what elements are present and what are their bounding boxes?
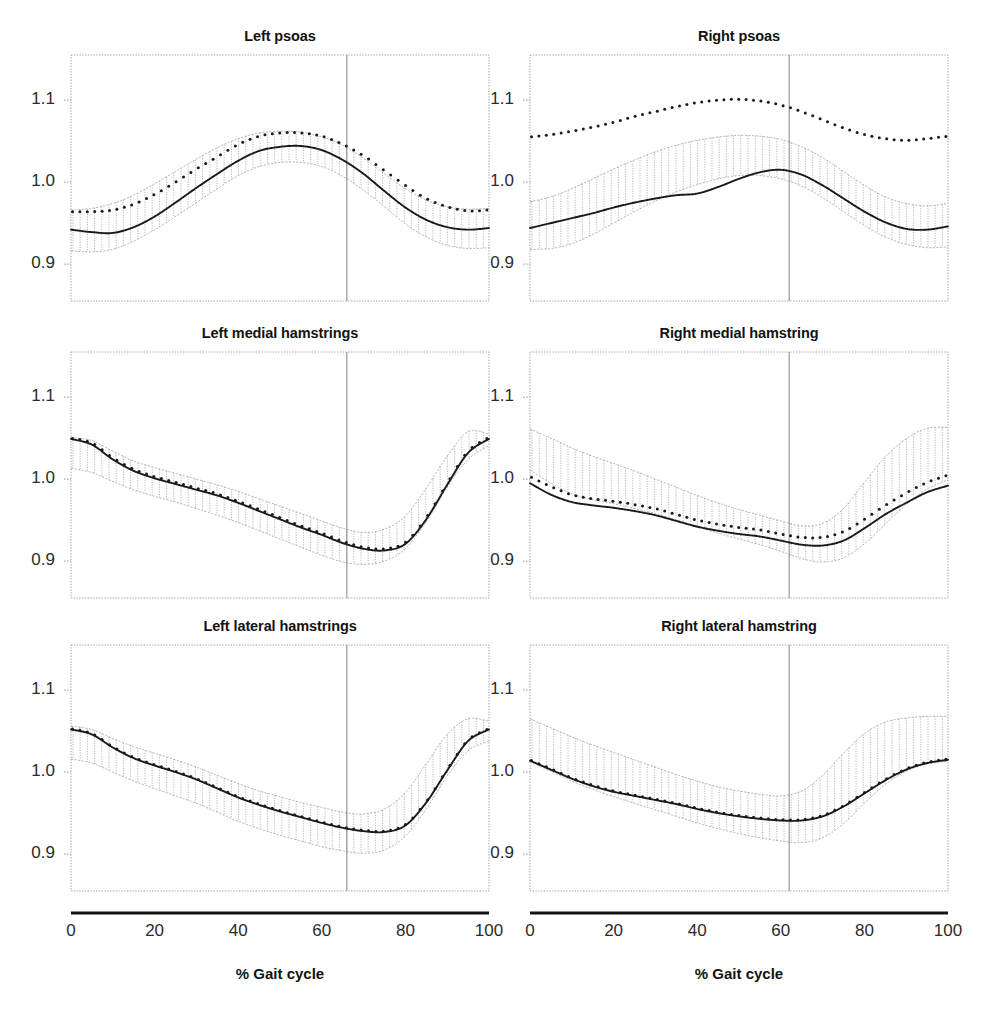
panel-right-medial-hamstring: Right medial hamstring (530, 325, 948, 598)
x-tick-label: 0 (500, 921, 560, 941)
panel-title: Left psoas (71, 28, 489, 44)
panel-left-lateral-hamstrings: Left lateral hamstrings (71, 618, 489, 891)
y-tick-label: 1.0 (468, 171, 514, 191)
x-tick-label: 60 (292, 921, 352, 941)
y-tick-label: 1.1 (9, 386, 55, 406)
y-tick-label: 0.9 (9, 550, 55, 570)
y-tick-label: 1.0 (9, 761, 55, 781)
panel-right-lateral-hamstring: Right lateral hamstring (530, 618, 948, 891)
x-tick-label: 40 (208, 921, 268, 941)
panel-title: Left lateral hamstrings (71, 618, 489, 634)
y-tick-label: 1.0 (468, 761, 514, 781)
x-tick-label: 80 (834, 921, 894, 941)
gait-muscle-length-figure: Left psoas1.11.00.9Right psoas1.11.00.9L… (0, 0, 982, 1014)
y-tick-label: 1.1 (468, 679, 514, 699)
y-tick-label: 1.0 (9, 171, 55, 191)
x-tick-label: 40 (667, 921, 727, 941)
y-tick-label: 0.9 (468, 843, 514, 863)
panel-title: Right psoas (530, 28, 948, 44)
x-tick-label: 20 (584, 921, 644, 941)
y-tick-label: 1.0 (468, 468, 514, 488)
x-axis-title: % Gait cycle (71, 965, 489, 982)
y-tick-label: 0.9 (468, 253, 514, 273)
panel-title: Left medial hamstrings (71, 325, 489, 341)
y-tick-label: 1.0 (9, 468, 55, 488)
x-tick-label: 80 (375, 921, 435, 941)
panel-left-psoas: Left psoas (71, 28, 489, 301)
panel-left-medial-hamstrings: Left medial hamstrings (71, 325, 489, 598)
panel-title: Right medial hamstring (530, 325, 948, 341)
panel-right-psoas: Right psoas (530, 28, 948, 301)
x-tick-label: 60 (751, 921, 811, 941)
x-tick-label: 100 (918, 921, 978, 941)
x-tick-label: 20 (125, 921, 185, 941)
x-tick-label: 0 (41, 921, 101, 941)
y-tick-label: 0.9 (9, 253, 55, 273)
y-tick-label: 0.9 (468, 550, 514, 570)
x-axis-title: % Gait cycle (530, 965, 948, 982)
y-tick-label: 1.1 (468, 386, 514, 406)
y-tick-label: 1.1 (9, 89, 55, 109)
y-tick-label: 0.9 (9, 843, 55, 863)
panel-title: Right lateral hamstring (530, 618, 948, 634)
y-tick-label: 1.1 (9, 679, 55, 699)
y-tick-label: 1.1 (468, 89, 514, 109)
